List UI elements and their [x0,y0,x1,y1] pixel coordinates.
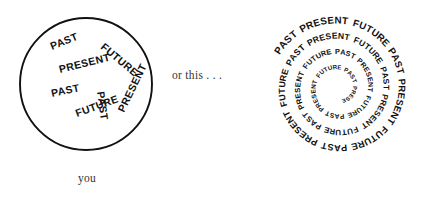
spiral-glyph: T [367,88,374,93]
spiral-glyph: E [350,141,359,152]
spiral-glyph: E [341,97,347,104]
figure-stage: PASTFUTUREPRESENTPASTPASTFUTUREPRESENT P… [0,0,423,198]
left-circle-figure: PASTFUTUREPRESENTPASTPASTFUTUREPRESENT [20,18,152,150]
right-spiral-figure: PASTPRESENTFUTUREPASTPRESENTFUTUREPASTPR… [272,14,408,153]
caption-or-this: or this . . . [172,69,222,81]
spiral-glyph: T [351,78,358,84]
spiral-glyph: E [325,47,332,57]
spiral-glyph: E [323,125,331,135]
spiral-glyph: T [342,15,350,27]
circle-word-present-2: PRESENT [58,51,112,75]
spiral-glyph: T [381,85,390,90]
circle-word-past-4: PAST [50,81,81,99]
spiral-glyph: T [320,140,328,151]
spiral-glyph: T [344,32,352,43]
spiral-glyph: E [337,64,342,70]
circle-word-past-0: PAST [48,30,79,52]
time-words-figures: PASTFUTUREPRESENTPASTPASTFUTUREPRESENT P… [0,0,423,198]
caption-you: you [78,172,96,184]
spiral-glyph: N [334,14,342,25]
spiral-glyph: T [310,79,318,85]
